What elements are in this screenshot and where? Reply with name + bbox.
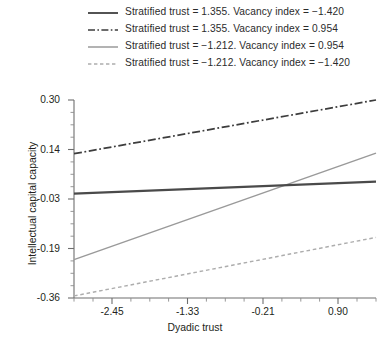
x-tick-label-2: -0.21 bbox=[233, 306, 293, 317]
series-line-2 bbox=[74, 153, 376, 260]
y-axis-title: Intellectual capital capacity bbox=[27, 104, 38, 304]
y-major-ticks bbox=[68, 100, 74, 298]
x-axis-title: Dyadic trust bbox=[0, 322, 390, 333]
x-tick-label-0: -2.45 bbox=[82, 306, 142, 317]
series-line-3 bbox=[74, 237, 376, 296]
series-line-0 bbox=[74, 182, 376, 194]
series-line-1 bbox=[74, 100, 376, 154]
x-tick-label-3: 0.90 bbox=[308, 306, 368, 317]
chart-container: Stratified trust = 1.355. Vacancy index … bbox=[0, 0, 390, 344]
x-tick-label-1: -1.33 bbox=[158, 306, 218, 317]
